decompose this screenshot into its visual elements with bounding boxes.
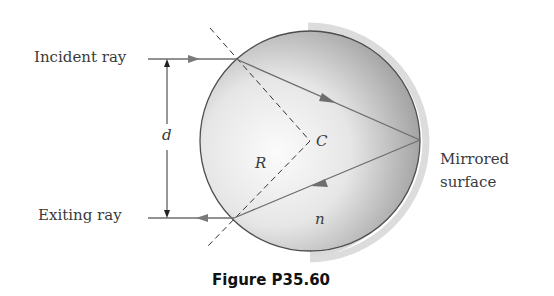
d-arrow-up-icon <box>164 59 170 67</box>
exiting-arrow-icon <box>196 214 208 222</box>
figure: Incident ray Exiting ray d C R n Mirrore… <box>0 0 554 296</box>
mirror-label-line2: surface <box>440 173 496 191</box>
center-label: C <box>316 132 327 150</box>
mirror-label-line1: Mirrored <box>440 150 509 168</box>
radius-label: R <box>255 154 266 172</box>
figure-caption: Figure P35.60 <box>212 271 330 289</box>
exiting-ray-label: Exiting ray <box>38 206 122 224</box>
incident-ray-label: Incident ray <box>34 48 126 66</box>
distance-label: d <box>162 126 172 144</box>
index-label: n <box>315 210 325 228</box>
incident-arrow-icon <box>188 55 200 63</box>
d-arrow-down-icon <box>164 210 170 218</box>
diagram-graphic <box>0 0 554 296</box>
